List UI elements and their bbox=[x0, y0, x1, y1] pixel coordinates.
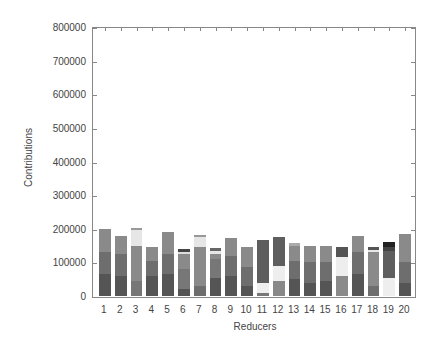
x-tick-label: 8 bbox=[207, 304, 223, 315]
bar-segment bbox=[383, 251, 395, 278]
y-tick-mark bbox=[411, 230, 415, 231]
bar-reducer-17 bbox=[352, 236, 364, 296]
bar-segment bbox=[304, 246, 316, 263]
bar-segment bbox=[146, 247, 158, 261]
bar-segment bbox=[241, 247, 253, 267]
x-tick-label: 17 bbox=[349, 304, 365, 315]
y-tick-mark bbox=[93, 196, 97, 197]
bar-reducer-12 bbox=[273, 237, 285, 296]
bar-reducer-16 bbox=[336, 247, 348, 296]
x-tick-label: 18 bbox=[365, 304, 381, 315]
x-tick-mark bbox=[342, 28, 343, 31]
bar-reducer-11 bbox=[257, 240, 269, 296]
bar-segment bbox=[399, 262, 411, 282]
bar-reducer-14 bbox=[304, 246, 316, 296]
y-tick-label: 500000 bbox=[36, 123, 86, 134]
bar-reducer-2 bbox=[115, 236, 127, 297]
bar-reducer-7 bbox=[194, 235, 206, 297]
y-tick-label: 400000 bbox=[36, 157, 86, 168]
y-tick-label: 0 bbox=[36, 291, 86, 302]
bar-segment bbox=[320, 262, 332, 280]
x-tick-mark bbox=[137, 28, 138, 31]
x-tick-mark bbox=[168, 28, 169, 31]
y-tick-mark bbox=[411, 196, 415, 197]
x-tick-label: 4 bbox=[143, 304, 159, 315]
y-tick-mark bbox=[93, 163, 97, 164]
y-tick-label: 300000 bbox=[36, 190, 86, 201]
bar-reducer-15 bbox=[320, 246, 332, 296]
bar-reducer-8 bbox=[210, 248, 222, 296]
x-tick-label: 15 bbox=[317, 304, 333, 315]
y-tick-mark bbox=[93, 129, 97, 130]
bar-segment bbox=[194, 247, 206, 286]
y-tick-mark bbox=[93, 230, 97, 231]
y-axis-title: Contributions bbox=[23, 118, 34, 198]
y-tick-label: 100000 bbox=[36, 257, 86, 268]
y-tick-label: 700000 bbox=[36, 56, 86, 67]
x-tick-mark bbox=[279, 28, 280, 31]
x-tick-mark bbox=[263, 28, 264, 31]
bar-segment bbox=[162, 254, 174, 274]
bar-reducer-9 bbox=[225, 238, 237, 296]
bar-segment bbox=[210, 278, 222, 296]
bar-segment bbox=[225, 256, 237, 276]
x-tick-mark bbox=[152, 28, 153, 31]
bar-segment bbox=[399, 234, 411, 262]
x-axis-title: Reducers bbox=[225, 321, 285, 332]
bar-segment bbox=[399, 283, 411, 296]
bar-reducer-18 bbox=[368, 247, 380, 296]
x-tick-label: 19 bbox=[380, 304, 396, 315]
bar-segment bbox=[241, 267, 253, 285]
bar-segment bbox=[304, 283, 316, 296]
x-tick-label: 7 bbox=[191, 304, 207, 315]
bar-segment bbox=[289, 246, 301, 261]
bar-segment bbox=[336, 276, 348, 296]
bar-reducer-1 bbox=[99, 229, 111, 296]
x-tick-mark bbox=[216, 28, 217, 31]
bar-segment bbox=[99, 252, 111, 274]
bar-segment bbox=[257, 283, 269, 293]
bar-segment bbox=[383, 278, 395, 296]
x-tick-label: 11 bbox=[254, 304, 270, 315]
bar-segment bbox=[115, 236, 127, 254]
bar-segment bbox=[352, 236, 364, 252]
bar-segment bbox=[178, 254, 190, 269]
bar-segment bbox=[368, 252, 380, 286]
bar-segment bbox=[289, 279, 301, 296]
x-tick-label: 12 bbox=[270, 304, 286, 315]
y-tick-mark bbox=[411, 129, 415, 130]
x-tick-mark bbox=[374, 28, 375, 31]
bar-segment bbox=[99, 229, 111, 253]
x-tick-mark bbox=[105, 28, 106, 31]
x-tick-mark bbox=[405, 28, 406, 31]
bar-segment bbox=[115, 276, 127, 296]
y-tick-mark bbox=[93, 297, 97, 298]
bar-segment bbox=[336, 247, 348, 258]
x-tick-label: 14 bbox=[301, 304, 317, 315]
bar-segment bbox=[115, 254, 127, 276]
bar-segment bbox=[257, 240, 269, 283]
y-tick-label: 200000 bbox=[36, 224, 86, 235]
x-tick-mark bbox=[200, 28, 201, 31]
x-tick-label: 5 bbox=[159, 304, 175, 315]
y-tick-mark bbox=[411, 95, 415, 96]
y-tick-mark bbox=[411, 263, 415, 264]
bar-reducer-3 bbox=[131, 228, 143, 296]
bar-segment bbox=[225, 238, 237, 255]
x-tick-label: 2 bbox=[112, 304, 128, 315]
bar-reducer-4 bbox=[146, 247, 158, 296]
x-tick-mark bbox=[389, 28, 390, 31]
x-tick-label: 3 bbox=[128, 304, 144, 315]
bar-segment bbox=[146, 276, 158, 296]
bar-segment bbox=[99, 274, 111, 296]
y-tick-mark bbox=[411, 28, 415, 29]
x-tick-label: 6 bbox=[175, 304, 191, 315]
x-tick-mark bbox=[247, 28, 248, 31]
plot-area bbox=[92, 27, 416, 298]
bar-segment bbox=[162, 232, 174, 254]
bar-segment bbox=[194, 286, 206, 296]
x-tick-label: 20 bbox=[396, 304, 412, 315]
x-tick-mark bbox=[231, 28, 232, 31]
bar-reducer-20 bbox=[399, 234, 411, 296]
bar-segment bbox=[368, 286, 380, 296]
